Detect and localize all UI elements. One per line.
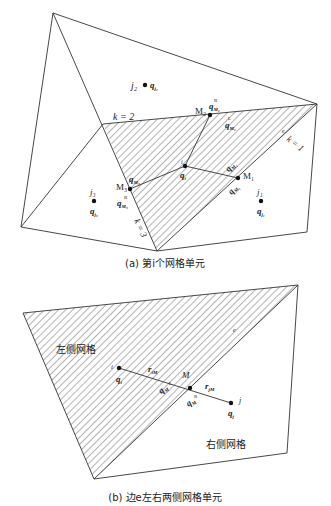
label-j3: j₃ — [89, 187, 96, 197]
label-left-cell: 左侧网格 — [56, 343, 96, 355]
point-j1 — [259, 199, 263, 203]
label-i-b: i — [111, 363, 113, 371]
label-sup-R-M3: R — [124, 195, 128, 200]
point-i — [183, 164, 187, 168]
caption-a: (a) 第i个网格单元 — [125, 257, 205, 269]
point-M1 — [236, 176, 240, 180]
label-q-j1: qj₁ — [257, 206, 265, 217]
label-e-b: e — [233, 327, 236, 333]
label-M1: M₁ — [243, 171, 254, 181]
cell-i-hatched — [103, 104, 317, 251]
label-sup-R-b: R — [194, 394, 198, 399]
label-k1: k = 1 — [285, 134, 306, 154]
left-cell-hatched — [23, 285, 298, 479]
point-j3 — [92, 199, 96, 203]
label-M2: M₂ — [195, 106, 206, 116]
point-j-b — [229, 401, 233, 405]
label-M-b: M — [181, 370, 190, 380]
diagram-canvas: j₂ qj₂ k = 2 M₂ R qM₂ L qM₂ e k = 1 i qi… — [0, 0, 331, 506]
label-j2: j₂ — [129, 80, 138, 91]
point-j2 — [143, 83, 147, 87]
point-M2 — [208, 113, 212, 117]
point-i-b — [117, 366, 121, 370]
label-q-j2: qj₂ — [150, 80, 158, 91]
label-j1: j₁ — [256, 187, 263, 197]
label-e: e — [282, 128, 285, 134]
label-q-j3: qj₃ — [90, 206, 98, 217]
figure-b: 左侧网格 右侧网格 e i qi riM M qM L rjM R qM j q… — [23, 285, 298, 503]
figure-a: j₂ qj₂ k = 2 M₂ R qM₂ L qM₂ e k = 1 i qi… — [21, 13, 317, 269]
label-q-j-b: qj — [228, 408, 235, 419]
label-sup-R-M2: R — [214, 98, 218, 103]
point-M-b — [188, 386, 192, 390]
label-r-jM: rjM — [205, 381, 215, 392]
label-k2: k = 2 — [113, 111, 134, 122]
label-M3: M₃ — [116, 182, 127, 192]
caption-b: (b) 边e左右两侧网格单元 — [108, 491, 221, 503]
label-sup-L-b: L — [169, 381, 172, 386]
point-M3 — [128, 187, 132, 191]
label-right-cell: 右侧网格 — [206, 438, 246, 450]
label-j-b: j — [238, 396, 242, 405]
